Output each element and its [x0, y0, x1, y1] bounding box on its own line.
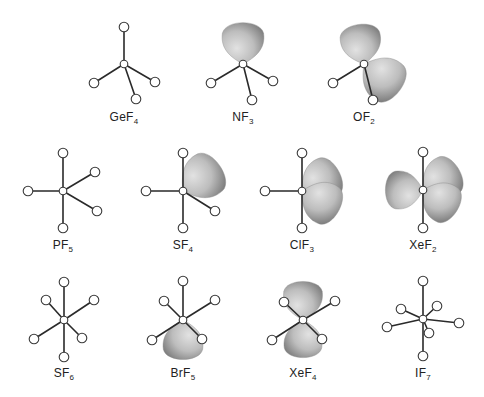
formula-subscript: 7	[426, 373, 431, 382]
central-atom-icon	[239, 60, 247, 68]
formula-subscript: 3	[309, 245, 314, 254]
fluorine-atom-icon	[119, 22, 129, 32]
molecule-label-SF4: SF4	[173, 238, 194, 254]
formula-text: BrF	[171, 366, 191, 380]
fluorine-atom-icon	[178, 148, 188, 158]
fluorine-atom-icon	[418, 351, 428, 361]
molecule-label-ClF3: ClF3	[290, 238, 314, 254]
bond-line	[64, 300, 94, 320]
fluorine-atom-icon	[90, 167, 100, 177]
fluorine-atom-icon	[131, 94, 141, 104]
fluorine-atom-icon	[59, 277, 69, 287]
fluorine-atom-icon	[418, 147, 428, 157]
fluorine-atom-icon	[418, 276, 428, 286]
fluorine-atom-icon	[150, 77, 160, 87]
molecule-label-XeF2: XeF2	[409, 238, 437, 254]
fluorine-atom-icon	[29, 334, 39, 344]
molecule-label-SF6: SF6	[54, 366, 75, 382]
molecule-OF2	[338, 22, 413, 109]
fluorine-atom-icon	[197, 334, 207, 344]
fluorine-atom-icon	[328, 78, 338, 88]
fluorine-atom-icon	[418, 223, 428, 233]
molecule-label-IF7: IF7	[415, 366, 431, 382]
fluorine-atom-icon	[58, 148, 68, 158]
bond-line	[243, 64, 252, 100]
fluorine-atom-icon	[147, 335, 157, 345]
fluorine-atom-icon	[317, 334, 327, 344]
bond-line	[63, 191, 97, 211]
formula-subscript: 5	[191, 373, 196, 382]
bond-line	[183, 300, 215, 320]
fluorine-atom-icon	[297, 148, 307, 158]
central-atom-icon	[360, 60, 368, 68]
molecule-label-OF2: OF2	[353, 110, 375, 126]
lone-pair-lobe-icon	[284, 281, 323, 320]
central-atom-icon	[179, 316, 187, 324]
formula-subscript: 2	[432, 245, 437, 254]
fluorine-atom-icon	[92, 206, 102, 216]
fluorine-atom-icon	[279, 297, 289, 307]
formula-subscript: 6	[70, 373, 75, 382]
fluorine-atom-icon	[368, 95, 378, 105]
fluorine-atom-icon	[267, 335, 277, 345]
central-atom-icon	[59, 187, 67, 195]
bond-line	[423, 319, 459, 323]
fluorine-atom-icon	[247, 95, 257, 105]
fluorine-atom-icon	[89, 295, 99, 305]
molecule-label-PF5: PF5	[53, 238, 74, 254]
formula-subscript: 5	[69, 245, 74, 254]
fluorine-atom-icon	[268, 76, 278, 86]
formula-subscript: 4	[189, 245, 194, 254]
molecule-label-NF3: NF3	[232, 110, 253, 126]
fluorine-atom-icon	[59, 352, 69, 362]
lone-pair-lobe-icon	[385, 171, 423, 209]
central-atom-icon	[120, 60, 128, 68]
formula-text: IF	[415, 366, 426, 380]
fluorine-atom-icon	[206, 78, 216, 88]
fluorine-atom-icon	[396, 304, 406, 314]
formula-subscript: 4	[312, 373, 317, 382]
molecule-NF3	[222, 23, 264, 64]
fluorine-atom-icon	[297, 223, 307, 233]
central-atom-icon	[299, 316, 307, 324]
formula-subscript: 3	[249, 117, 254, 126]
lone-pair-lobe-icon	[222, 23, 264, 64]
fluorine-atom-icon	[454, 318, 464, 328]
bond-line	[333, 64, 364, 83]
formula-text: OF	[353, 110, 370, 124]
lone-pair-lobe-icon	[284, 320, 322, 358]
fluorine-atom-icon	[159, 296, 169, 306]
bond-line	[63, 172, 95, 191]
formula-text: SF	[173, 238, 189, 252]
molecule-diagram	[0, 0, 484, 397]
central-atom-icon	[419, 186, 427, 194]
molecule-label-GeF4: GeF4	[110, 110, 139, 126]
formula-text: NF	[232, 110, 249, 124]
fluorine-atom-icon	[89, 78, 99, 88]
central-atom-icon	[60, 316, 68, 324]
molecule-label-XeF4: XeF4	[289, 366, 317, 382]
bond-line	[387, 319, 423, 327]
fluorine-atom-icon	[141, 186, 151, 196]
formula-text: GeF	[110, 110, 134, 124]
fluorine-atom-icon	[210, 206, 220, 216]
formula-subscript: 4	[134, 117, 139, 126]
formula-text: XeF	[409, 238, 432, 252]
fluorine-atom-icon	[424, 328, 434, 338]
formula-text: PF	[53, 238, 69, 252]
fluorine-atom-icon	[23, 186, 33, 196]
formula-text: XeF	[289, 366, 312, 380]
fluorine-atom-icon	[432, 301, 442, 311]
bond-line	[211, 64, 243, 83]
fluorine-atom-icon	[77, 333, 87, 343]
fluorine-atom-icon	[260, 186, 270, 196]
fluorine-atom-icon	[382, 322, 392, 332]
central-atom-icon	[179, 187, 187, 195]
formula-text: ClF	[290, 238, 310, 252]
central-atom-icon	[298, 187, 306, 195]
fluorine-atom-icon	[58, 223, 68, 233]
formula-subscript: 2	[370, 117, 375, 126]
fluorine-atom-icon	[178, 276, 188, 286]
fluorine-atom-icon	[330, 296, 340, 306]
fluorine-atom-icon	[178, 223, 188, 233]
